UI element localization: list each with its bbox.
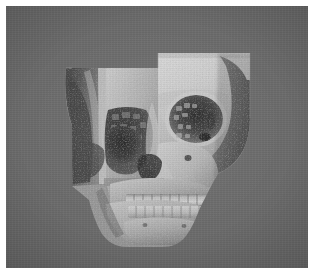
volume-render-canvas[interactable] <box>6 6 308 268</box>
skull-volume-group <box>62 48 256 256</box>
skull-volume-rendering <box>6 6 308 268</box>
image-viewport <box>0 0 314 276</box>
